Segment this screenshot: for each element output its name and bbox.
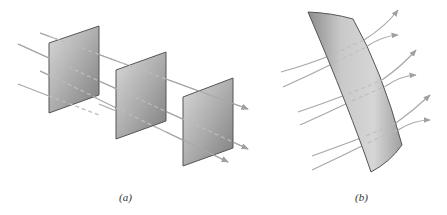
field-line-b-5 xyxy=(396,95,430,123)
field-line-b-6 xyxy=(398,120,430,130)
field-line-b-2 xyxy=(366,35,398,47)
panel-b xyxy=(281,10,430,172)
field-line-b-4 xyxy=(386,75,416,86)
panel-a xyxy=(18,26,248,166)
curved-surface xyxy=(308,12,402,172)
caption-b: (b) xyxy=(355,191,368,203)
caption-a: (a) xyxy=(119,191,132,203)
figure-canvas xyxy=(0,0,447,215)
flat-surface-2 xyxy=(116,52,166,139)
